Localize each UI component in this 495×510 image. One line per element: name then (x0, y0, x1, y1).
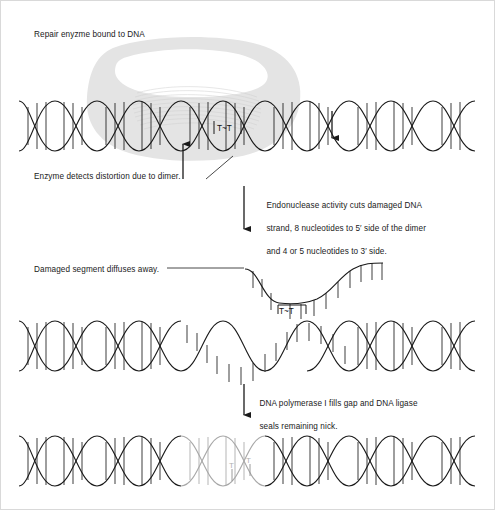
repaired-base-pair-rungs (190, 437, 244, 485)
excised-strand (245, 263, 383, 319)
dimer-label-top: T~T (217, 124, 232, 133)
endo-line-1: Endonuclease activity cuts damaged DNA (266, 201, 422, 210)
step4-polymerase-caption: DNA polymerase I fills gap and DNA ligas… (250, 386, 418, 444)
repaired-segment (181, 436, 265, 486)
step3-diffuse-caption: Damaged segment diffuses away. (34, 264, 159, 276)
dimer-label-repaired-right: T (246, 456, 251, 465)
dimer-label-repaired-left: T (229, 461, 234, 470)
dimer-label-excised: T~T (279, 307, 294, 316)
poly-line-1: DNA polymerase I fills gap and DNA ligas… (259, 399, 417, 408)
helix-panel-2 (19, 321, 475, 385)
step2-endonuclease-caption: Endonuclease activity cuts damaged DNA s… (257, 188, 426, 269)
endo-line-3: and 4 or 5 nucleotides to 3′ side. (266, 247, 386, 256)
step1-detect-caption: Enzyme detects distortion due to dimer. (34, 171, 181, 183)
figure-canvas: Repair enyzme bound to DNA Enzyme detect… (0, 0, 495, 510)
poly-line-2: seals remaining nick. (259, 422, 337, 431)
step1-title: Repair enyzme bound to DNA (34, 29, 145, 41)
gap-single-strand-ticks (187, 323, 345, 385)
endo-line-2: strand, 8 nucleotides to 5′ side of the … (266, 224, 426, 233)
excised-nucleotide-ticks (253, 263, 382, 319)
